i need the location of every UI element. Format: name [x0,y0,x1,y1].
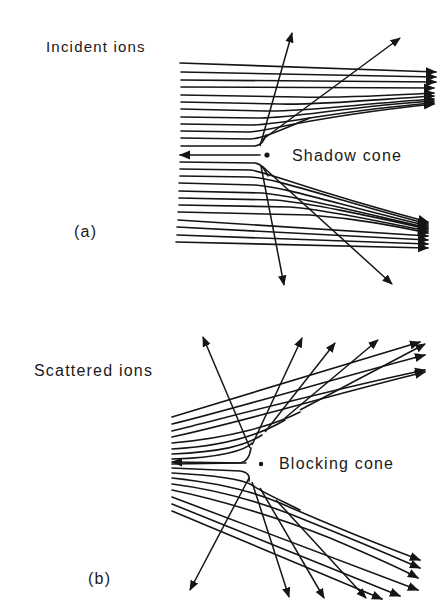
lower-trajectories [176,162,428,248]
panel-b-blocking-cone: Scattered ions Blocking cone (b) [0,300,448,611]
upper-trajectories [180,63,436,146]
scattered-ions-label: Scattered ions [34,362,153,380]
incident-ions-label: Incident ions [46,38,146,55]
target-atom [264,152,269,157]
upper-scattered-trajectories [172,342,425,464]
target-atom [259,462,263,466]
panel-a-shadow-cone: Incident ions Shadow cone (a) [0,0,448,300]
blocking-cone-label: Blocking cone [279,455,394,473]
shadow-cone-label: Shadow cone [292,147,402,165]
panel-b-tag: (b) [88,570,111,588]
panel-a-tag: (a) [74,223,97,241]
lower-scattered-trajectories [172,468,420,599]
